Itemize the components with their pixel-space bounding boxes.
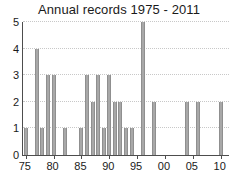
bar [79, 128, 83, 155]
bar [85, 75, 89, 155]
y-tick-label: 3 [1, 70, 19, 81]
y-tick-label: 0 [1, 150, 19, 161]
x-tick-label: 90 [102, 161, 114, 172]
x-tick-label: 00 [158, 161, 170, 172]
plot-area [22, 22, 229, 156]
y-tick-label: 5 [1, 17, 19, 28]
bar [24, 128, 28, 155]
chart-title: Annual records 1975 - 2011 [0, 2, 238, 17]
y-tick-label: 4 [1, 44, 19, 55]
x-axis-labels: 7580859095000510 [22, 159, 229, 179]
bar [40, 128, 44, 155]
bar [196, 102, 200, 155]
x-tick-label: 80 [46, 161, 58, 172]
bar [219, 102, 223, 155]
x-tick-label: 95 [130, 161, 142, 172]
bar [96, 75, 100, 155]
bar [124, 128, 128, 155]
x-tick-label: 05 [186, 161, 198, 172]
bar [185, 102, 189, 155]
bar [107, 75, 111, 155]
y-tick-label: 2 [1, 97, 19, 108]
bar [91, 102, 95, 155]
bar [63, 128, 67, 155]
y-axis-labels: 012345 [0, 22, 19, 156]
gridline-y-5 [23, 21, 229, 22]
bar [102, 128, 106, 155]
annual-records-bar-chart: Annual records 1975 - 2011 012345 758085… [0, 0, 238, 185]
bar [130, 128, 134, 155]
bar [52, 75, 56, 155]
bar [152, 102, 156, 155]
gridline-y-4 [23, 48, 229, 49]
x-tick-label: 85 [74, 161, 86, 172]
x-tick-label: 10 [214, 161, 226, 172]
bar [141, 22, 145, 155]
bar [113, 102, 117, 155]
x-tick-label: 75 [19, 161, 31, 172]
y-tick-label: 1 [1, 123, 19, 134]
bar [118, 102, 122, 155]
bar [35, 49, 39, 155]
bar [46, 75, 50, 155]
